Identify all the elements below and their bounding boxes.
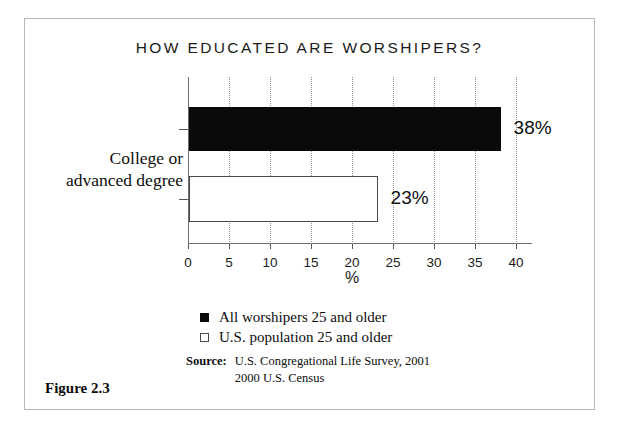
gridline-25	[393, 77, 394, 244]
x-tick-mark-40	[516, 244, 517, 249]
gridline-40	[516, 77, 517, 244]
x-tick-label-0: 0	[184, 255, 192, 270]
x-tick-mark-35	[475, 244, 476, 249]
bar-us-population	[189, 176, 378, 222]
legend-label-us-population: U.S. population 25 and older	[219, 329, 392, 346]
source-line-1: U.S. Congregational Life Survey, 2001	[235, 353, 430, 370]
legend: All worshipers 25 and older U.S. populat…	[200, 307, 392, 347]
category-label-line-1: College or	[55, 147, 183, 169]
bar-all-worshipers	[189, 107, 501, 151]
plot-area: 0510152025303540 38% 23%	[188, 77, 516, 244]
x-tick-label-30: 30	[426, 255, 441, 270]
y-tick-mark-population	[179, 199, 188, 200]
bar-value-label-worshipers: 38%	[514, 117, 552, 139]
figure-frame: HOW EDUCATED ARE WORSHIPERS? College or …	[24, 18, 595, 410]
x-tick-mark-10	[270, 244, 271, 249]
source-note: Source: U.S. Congregational Life Survey,…	[186, 353, 430, 386]
legend-swatch-hollow-icon	[200, 333, 209, 342]
figure-caption: Figure 2.3	[45, 380, 110, 397]
bar-value-label-population: 23%	[391, 187, 429, 209]
category-axis-label: College or advanced degree	[55, 147, 183, 191]
gridline-30	[434, 77, 435, 244]
chart-title: HOW EDUCATED ARE WORSHIPERS?	[25, 39, 594, 57]
legend-swatch-filled-icon	[200, 313, 209, 322]
x-tick-mark-5	[229, 244, 230, 249]
x-tick-mark-15	[311, 244, 312, 249]
category-label-line-2: advanced degree	[55, 169, 183, 191]
x-tick-label-15: 15	[303, 255, 318, 270]
x-tick-label-5: 5	[225, 255, 233, 270]
x-tick-label-20: 20	[344, 255, 359, 270]
x-tick-mark-30	[434, 244, 435, 249]
x-tick-label-40: 40	[508, 255, 523, 270]
legend-entry-us-population: U.S. population 25 and older	[200, 327, 392, 347]
x-axis-line	[188, 243, 532, 244]
source-lines: U.S. Congregational Life Survey, 2001 20…	[235, 353, 430, 386]
x-tick-label-25: 25	[385, 255, 400, 270]
y-tick-mark-worshipers	[179, 129, 188, 130]
x-tick-label-35: 35	[467, 255, 482, 270]
x-axis-title: %	[188, 269, 516, 287]
x-tick-label-10: 10	[262, 255, 277, 270]
source-label: Source:	[186, 353, 227, 386]
x-tick-mark-20	[352, 244, 353, 249]
x-tick-mark-0	[188, 244, 189, 249]
legend-label-all-worshipers: All worshipers 25 and older	[219, 309, 386, 326]
legend-entry-all-worshipers: All worshipers 25 and older	[200, 307, 392, 327]
gridline-35	[475, 77, 476, 244]
x-tick-mark-25	[393, 244, 394, 249]
source-line-2: 2000 U.S. Census	[235, 370, 430, 387]
